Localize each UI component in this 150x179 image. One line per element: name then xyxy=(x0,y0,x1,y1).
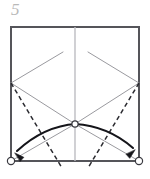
reference-point-bottom-left xyxy=(7,157,14,164)
reference-point-center xyxy=(72,121,78,127)
origami-crease-pattern-canvas xyxy=(0,0,150,179)
reference-point-bottom-right xyxy=(135,157,142,164)
origami-step-diagram: 5 xyxy=(0,0,150,179)
